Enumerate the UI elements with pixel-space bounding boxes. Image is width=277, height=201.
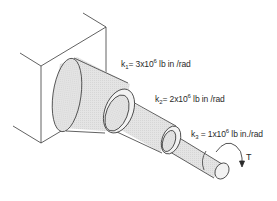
k2-value: = 2x10 (162, 94, 187, 104)
stiffness-label-k1: k1= 3x106 lb in /rad (121, 58, 191, 70)
k1-unit: lb in /rad (157, 59, 191, 69)
stiffness-label-k3: k3 = 1x106 lb in./rad (191, 128, 263, 140)
shaft-diagram (0, 0, 277, 201)
k1-value: = 3x10 (128, 59, 153, 69)
k3-value: = 1x10 (198, 129, 225, 139)
k2-unit: lb in /rad (191, 94, 225, 104)
stiffness-label-k2: k2= 2x106 lb in /rad (155, 93, 225, 105)
torque-label: T (246, 152, 252, 162)
k3-unit: lb in./rad (229, 129, 263, 139)
